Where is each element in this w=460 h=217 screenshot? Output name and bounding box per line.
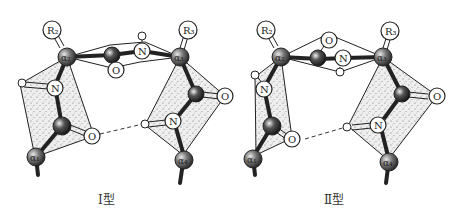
label-o-top: O bbox=[112, 65, 120, 76]
atom-carbon-left bbox=[263, 117, 281, 135]
label-n-top: N bbox=[339, 53, 348, 64]
panel-type-II: R₂ R₃ α₂ α₃ α₁ α₄ N O O N bbox=[244, 21, 445, 183]
atom-carbon-right bbox=[188, 86, 204, 102]
label-o-left: O bbox=[288, 134, 296, 145]
label-r3: R₃ bbox=[183, 25, 195, 36]
label-alpha1: α₁ bbox=[30, 153, 40, 163]
atom-h-top bbox=[138, 32, 146, 40]
label-o-left: O bbox=[88, 131, 96, 142]
label-alpha4: α₄ bbox=[178, 156, 188, 166]
label-n-top: N bbox=[138, 46, 147, 57]
label-alpha2: α₂ bbox=[61, 53, 71, 63]
atom-h-left bbox=[251, 71, 259, 79]
atom-h-left bbox=[18, 79, 26, 87]
atom-carbon-top bbox=[104, 47, 120, 63]
caption-type-I: Ⅰ型 bbox=[98, 190, 115, 207]
label-n-left: N bbox=[51, 83, 60, 94]
label-alpha3: α₃ bbox=[174, 53, 184, 63]
label-r2: R₂ bbox=[261, 25, 273, 36]
label-n-right: N bbox=[169, 116, 178, 127]
atom-carbon-right bbox=[394, 86, 410, 102]
diagram-svg: R₂ R₃ α₂ α₃ α₁ α₄ N O O N bbox=[0, 0, 460, 217]
atom-carbon-top bbox=[310, 50, 326, 66]
atom-carbon-left bbox=[53, 117, 71, 135]
label-n-left: N bbox=[260, 84, 269, 95]
label-o-right: O bbox=[221, 91, 229, 102]
atom-h-top bbox=[336, 68, 344, 76]
label-r2: R₂ bbox=[47, 25, 59, 36]
label-alpha4: α₄ bbox=[383, 158, 393, 168]
label-alpha2: α₂ bbox=[275, 53, 285, 63]
beta-turn-figure: R₂ R₃ α₂ α₃ α₁ α₄ N O O N bbox=[0, 0, 460, 217]
label-alpha3: α₃ bbox=[377, 53, 387, 63]
hydrogen-bond bbox=[305, 127, 346, 139]
label-r3: R₃ bbox=[385, 26, 397, 37]
label-alpha1: α₁ bbox=[247, 155, 257, 165]
label-n-right: N bbox=[374, 120, 383, 131]
label-o-right: O bbox=[433, 91, 441, 102]
panel-type-I: R₂ R₃ α₂ α₃ α₁ α₄ N O O N bbox=[18, 21, 233, 183]
hydrogen-bond bbox=[100, 124, 143, 134]
atom-h-right bbox=[343, 123, 351, 131]
caption-type-II: Ⅱ型 bbox=[324, 190, 344, 207]
label-o-top: O bbox=[325, 35, 333, 46]
atom-h-right bbox=[141, 120, 149, 128]
